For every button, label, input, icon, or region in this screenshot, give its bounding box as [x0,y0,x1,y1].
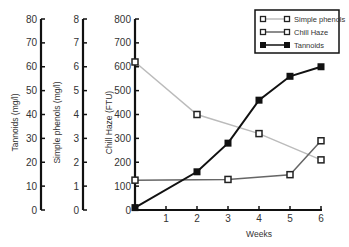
x-tick-label: 1 [163,213,169,224]
x-tick-label: 4 [256,213,262,224]
x-tick-label: 2 [194,213,200,224]
y-tick-label: 100 [114,181,131,192]
y-tick-label: 6 [73,61,79,72]
y-tick-label: 3 [73,133,79,144]
y-tick-label: 5 [73,85,79,96]
x-axis [135,206,322,210]
y-axis-label: Simple phenols (mg/l) [52,81,62,163]
x-tick-label: 5 [287,213,293,224]
y-tick-label: 4 [73,109,79,120]
y-tick-label: 7 [73,37,79,48]
y-tick-label: 60 [26,61,38,72]
legend-entry: Simple phenols [294,15,346,24]
x-tick-label: 6 [318,213,324,224]
y-tick-label: 700 [114,37,131,48]
y-tick-label: 8 [73,14,79,25]
y-tick-label: 30 [26,133,38,144]
y-tick-label: 500 [114,85,131,96]
x-tick-label: 3 [225,213,231,224]
legend-entry: Tannoids [294,41,324,50]
y-axis-1 [83,19,87,210]
y-axis-0 [41,19,45,210]
y-tick-label: 200 [114,157,131,168]
y-tick-label: 1 [73,181,79,192]
y-axis-label: Tannoids (mg/l) [10,93,20,151]
y-tick-label: 10 [26,181,38,192]
y-tick-label: 2 [73,157,79,168]
y-tick-label: 600 [114,61,131,72]
x-axis-label: Weeks [246,229,272,239]
y-tick-label: 40 [26,109,38,120]
series-tannoids [132,63,325,211]
y-tick-label: 50 [26,85,38,96]
y-axis-label: Chill Haze (FTU) [104,91,114,154]
y-tick-label: 80 [26,14,38,25]
legend-entry: Chill Haze [294,28,328,37]
y-tick-label: 0 [125,205,131,216]
y-tick-label: 20 [26,157,38,168]
y-tick-label: 800 [114,14,131,25]
y-tick-label: 70 [26,37,38,48]
y-tick-label: 300 [114,133,131,144]
y-tick-label: 0 [73,205,79,216]
chart: 01020304050607080Tannoids (mg/l)01234567… [0,0,349,247]
y-tick-label: 400 [114,109,131,120]
y-tick-label: 0 [31,205,37,216]
